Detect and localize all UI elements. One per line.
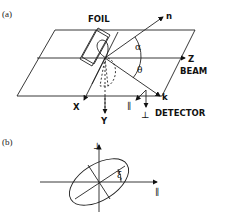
panel-a — [17, 17, 195, 113]
perp-label: ⊥ — [141, 110, 149, 120]
y-label: Y — [100, 116, 108, 126]
panel-a-label: (a) — [2, 9, 12, 19]
detector-label: DETECTOR — [155, 108, 206, 118]
n-label: n — [166, 11, 172, 21]
x-label: X — [73, 102, 80, 112]
alpha-label: α — [135, 42, 141, 52]
panel-b — [40, 145, 157, 215]
diagram: (a) FOIL n α θ Z BEAM k X Y ∥ ⊥ DETECTOR… — [0, 0, 230, 221]
perp-axis-label: ⊥ — [93, 141, 101, 151]
panel-b-label: (b) — [2, 137, 13, 147]
parallel-axis-label: ∥ — [155, 187, 159, 197]
beam-label: BEAM — [180, 66, 207, 76]
parallel-label: ∥ — [127, 101, 131, 111]
z-label: Z — [188, 54, 194, 64]
k-label: k — [162, 92, 168, 102]
theta-label: θ — [137, 65, 142, 75]
xi-label: ξ — [117, 170, 122, 180]
x-axis — [84, 58, 105, 100]
n-vector — [105, 17, 163, 58]
k-vector — [105, 58, 160, 96]
foil-label: FOIL — [88, 14, 110, 24]
